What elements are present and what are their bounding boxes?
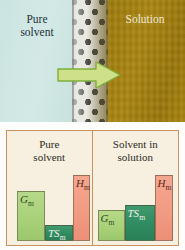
pure-solvent-label-line2: solvent <box>8 26 66 39</box>
solvent-in-solution-column: Solvent in solution Gm TSm Hm <box>93 131 179 245</box>
gibbs-energy-bar-label: Gm <box>20 194 34 209</box>
title-line1: Pure <box>7 138 92 151</box>
entropy-term-bar-label: TSm <box>128 208 145 223</box>
entropy-term-bar: TSm <box>45 225 73 241</box>
pure-solvent-column-title: Pure solvent <box>7 138 92 163</box>
title-line1: Solvent in <box>93 138 179 151</box>
energy-diagram-panel: Pure solvent Gm TSm Hm Solvent in soluti… <box>6 130 179 246</box>
solution-label: Solution <box>112 13 178 26</box>
enthalpy-bar-label: Hm <box>158 178 172 193</box>
entropy-term-bar-label: TSm <box>48 228 65 243</box>
pure-solvent-label-line1: Pure <box>8 13 66 26</box>
enthalpy-bar: Hm <box>73 175 90 241</box>
gibbs-energy-bar: Gm <box>98 210 125 241</box>
osmosis-figure: Pure solvent Solution Pure solvent Gm TS… <box>0 0 185 250</box>
gibbs-energy-bar: Gm <box>17 191 45 241</box>
pure-solvent-column: Pure solvent Gm TSm Hm <box>7 131 93 245</box>
enthalpy-bar-label: Hm <box>76 178 90 193</box>
pure-solvent-label: Pure solvent <box>8 13 66 39</box>
gibbs-energy-bar-label: Gm <box>101 213 115 228</box>
pure-solvent-bars: Gm TSm Hm <box>7 161 92 241</box>
solvent-flow-arrow-icon <box>56 60 122 90</box>
enthalpy-bar: Hm <box>155 175 173 241</box>
solvent-in-solution-column-title: Solvent in solution <box>93 138 179 163</box>
entropy-term-bar: TSm <box>125 205 155 241</box>
osmosis-cell-panel: Pure solvent Solution <box>0 0 185 122</box>
solvent-in-solution-bars: Gm TSm Hm <box>93 161 179 241</box>
